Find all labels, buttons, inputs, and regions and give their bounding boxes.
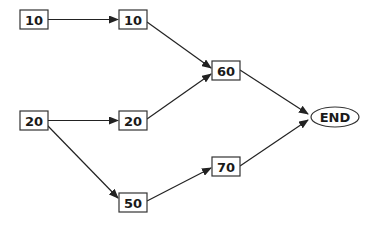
node-end: END [311, 107, 359, 127]
node-e: 20 [119, 111, 147, 130]
node-b: 10 [119, 10, 147, 29]
node-g: 70 [212, 157, 240, 176]
node-c: 60 [212, 61, 240, 80]
node-c-label: 60 [217, 64, 235, 79]
edge-d-f [47, 125, 118, 198]
node-a-label: 10 [25, 13, 43, 28]
node-a: 10 [20, 10, 48, 29]
node-b-label: 10 [124, 13, 142, 28]
edge-f-g [147, 168, 211, 201]
node-e-label: 20 [124, 114, 142, 129]
node-d: 20 [20, 111, 48, 130]
edge-g-end [240, 120, 308, 166]
flow-diagram: 10 10 60 20 20 50 70 END [0, 0, 376, 227]
node-g-label: 70 [217, 160, 235, 175]
edge-c-end [240, 70, 308, 114]
node-f-label: 50 [124, 196, 142, 211]
node-f: 50 [119, 193, 147, 212]
node-end-label: END [320, 110, 351, 125]
edges [47, 20, 308, 202]
edge-b-c [147, 22, 211, 68]
node-d-label: 20 [25, 114, 43, 129]
edge-e-c [147, 74, 211, 119]
